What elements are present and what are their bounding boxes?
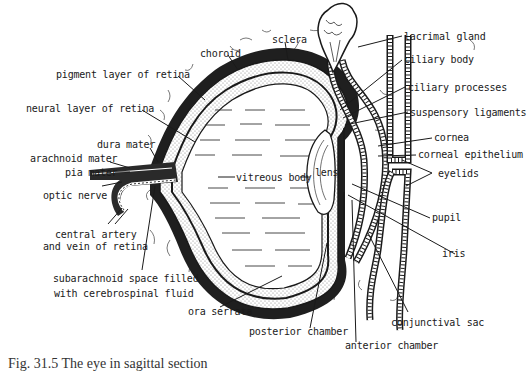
label-subarachnoid-2: with cerebrospinal fluid — [54, 288, 194, 299]
label-neural-layer: neural layer of retina — [26, 103, 154, 114]
label-ciliary-body: ciliary body — [404, 54, 474, 65]
label-central-artery-1: central artery — [55, 229, 137, 240]
label-sclera: sclera — [272, 34, 307, 45]
label-conjunctival-sac: conjunctival sac — [391, 317, 484, 328]
label-pupil: pupil — [432, 212, 461, 223]
label-lacrimal-gland: lacrimal gland — [404, 31, 486, 42]
label-choroid: choroid — [200, 48, 241, 59]
label-eyelids: eyelids — [438, 168, 479, 179]
label-dura-mater: dura mater — [97, 139, 155, 150]
label-central-artery-2: and vein of retina — [43, 241, 148, 252]
label-suspensory-ligaments: suspensory ligaments — [410, 107, 526, 118]
label-posterior-chamber: posterior chamber — [249, 326, 348, 337]
label-iris: iris — [442, 248, 465, 259]
label-optic-nerve: optic nerve — [43, 190, 107, 201]
label-pigment-layer: pigment layer of retina — [56, 69, 190, 80]
label-lens: lens — [315, 167, 338, 178]
label-anterior-chamber: anterior chamber — [345, 340, 438, 351]
label-ora-serrata: ora serrata — [188, 306, 252, 317]
label-ciliary-processes: ciliary processes — [408, 82, 507, 93]
label-subarachnoid-1: subarachnoid space filled — [53, 273, 199, 284]
label-corneal-epithelium: corneal epithelium — [418, 149, 523, 160]
figure-caption: Fig. 31.5 The eye in sagittal section — [8, 356, 208, 372]
label-pia-mater: pia mater — [65, 167, 117, 178]
label-cornea: cornea — [434, 132, 469, 143]
label-arachnoid-mater: arachnoid mater — [30, 153, 117, 164]
label-vitreous-body: vitreous body — [236, 172, 312, 183]
